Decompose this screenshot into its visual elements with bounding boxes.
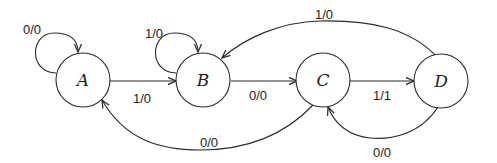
state-a: A (56, 53, 110, 107)
label-b-c: 0/0 (249, 88, 267, 103)
state-a-label: A (75, 70, 89, 90)
transition-d-b (222, 21, 437, 58)
transition-d-c (328, 107, 438, 138)
state-c-label: C (316, 70, 329, 90)
label-a-a: 0/0 (23, 22, 41, 37)
label-d-b: 1/0 (315, 7, 333, 22)
label-d-c: 0/0 (373, 145, 391, 160)
state-c: C (296, 53, 350, 107)
label-b-b: 1/0 (145, 26, 163, 41)
state-b-label: B (196, 70, 210, 90)
state-diagram: A B C D 0/0 1/0 1/0 0/0 1/1 0/0 1/0 0/0 (0, 0, 497, 163)
state-d-label: D (433, 71, 448, 91)
label-a-b: 1/0 (133, 91, 151, 106)
label-c-d: 1/1 (373, 88, 391, 103)
state-d: D (414, 54, 468, 108)
state-b: B (176, 53, 230, 107)
label-c-a: 0/0 (200, 135, 218, 150)
